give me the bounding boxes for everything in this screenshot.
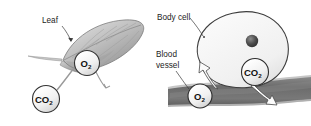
figure-canvas: Leaf O2 CO2 [0,0,311,126]
leaf-label: Leaf [42,16,59,25]
blood-vessel-label-line2: vessel [156,61,179,70]
blood-vessel-label-line1: Blood [156,50,177,59]
body-cell-label-leader [190,18,203,36]
membrane-dot [203,36,205,38]
leaf-panel: Leaf O2 CO2 [28,16,144,113]
leaf-oxygen-bubble: O2 [75,51,100,76]
body-cell-oxygen-bubble: O2 [188,84,212,108]
body-cell-panel: Body cell Blood vessel O2 CO2 [156,12,311,108]
gas-exchange-figure: Leaf O2 CO2 [0,0,311,126]
nucleus [246,35,258,47]
leaf-carbon-dioxide-bubble: CO2 [33,86,60,113]
leaf-stem [28,56,62,61]
body-cell-label: Body cell [157,13,190,22]
leaf-stalk-co2 [57,68,74,90]
leaf-label-arrowhead [68,38,73,42]
body-cell-carbon-dioxide-bubble: CO2 [242,59,269,86]
